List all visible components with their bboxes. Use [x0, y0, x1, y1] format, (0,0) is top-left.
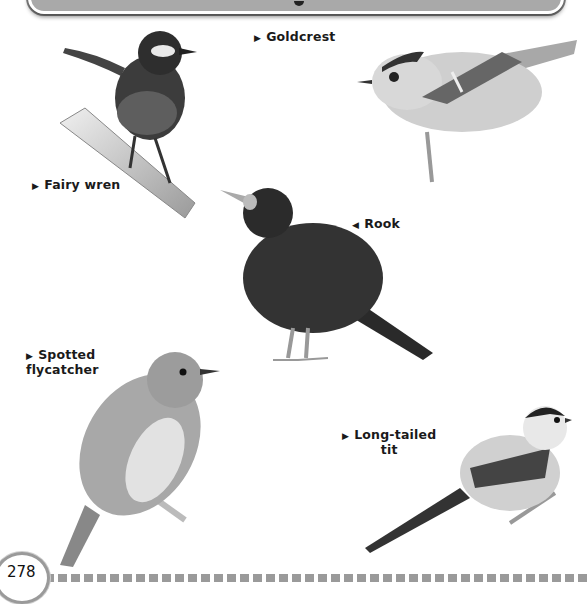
label-goldcrest: ▶Goldcrest — [254, 30, 335, 45]
arrow-right-icon: ▶ — [342, 431, 349, 441]
page-number-badge: 278 — [0, 552, 50, 604]
goldcrest-illustration — [352, 32, 582, 192]
header-banner — [28, 0, 564, 14]
title-glyph-fragment — [294, 1, 304, 6]
fairy-wren-illustration — [55, 28, 205, 223]
arrow-right-icon: ▶ — [26, 351, 33, 361]
arrow-right-icon: ▶ — [254, 33, 261, 43]
long-tailed-tit-illustration — [360, 398, 575, 553]
footer-dashed-border — [45, 574, 588, 582]
spotted-flycatcher-illustration — [55, 345, 225, 570]
arrow-right-icon: ▶ — [32, 181, 39, 191]
label-text: Goldcrest — [266, 29, 335, 44]
rook-illustration — [218, 178, 438, 368]
page-number: 278 — [7, 563, 36, 581]
